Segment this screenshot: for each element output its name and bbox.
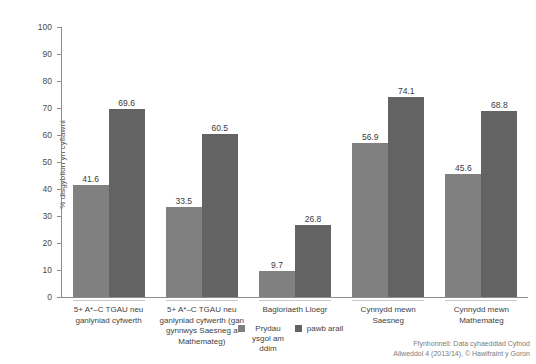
source-line-2: Allweddol 4 (2013/14), © Hawlfraint y Go… (393, 349, 530, 359)
bar: 33.5 (166, 207, 202, 297)
bar-rect (73, 185, 109, 297)
bar-group: 33.560.5 (155, 27, 248, 297)
legend-swatch-icon (238, 325, 245, 332)
y-tick-label: 50 (28, 157, 52, 167)
y-tick-label: 70 (28, 103, 52, 113)
bar-rect (166, 207, 202, 297)
category-label: 5+ A*–C TGAU neu ganlyniad cyfwerth (gan… (154, 305, 250, 347)
category-label: 5+ A*–C TGAU neu ganlyniad cyfwerth (61, 305, 157, 326)
source-line-1: Ffynhonnell: Data cyhaeddiad Cyfnod (393, 339, 530, 349)
source-note: Ffynhonnell: Data cyhaeddiad Cyfnod Allw… (393, 339, 530, 358)
y-tick-mark (57, 27, 61, 28)
bar-group-bars: 9.726.8 (248, 27, 341, 297)
bar: 68.8 (481, 111, 517, 297)
bar-group-bars: 33.560.5 (155, 27, 248, 297)
bar-group-bars: 45.668.8 (435, 27, 528, 297)
bar-value-label: 74.1 (398, 86, 415, 96)
y-tick-label: 80 (28, 76, 52, 86)
y-tick-label: 40 (28, 184, 52, 194)
bar-rect (202, 134, 238, 297)
legend-label: Prydau ysgol am ddim (249, 324, 287, 354)
bar-chart: % disgyblion yn cyflawni 010203040506070… (0, 0, 536, 364)
bar-rect (295, 225, 331, 297)
bar-value-label: 68.8 (491, 100, 508, 110)
bar-rect (259, 271, 295, 297)
bar-value-label: 69.6 (118, 98, 135, 108)
bar-group: 41.669.6 (62, 27, 155, 297)
category-label: Cynnydd mewn Saesneg (346, 305, 430, 326)
bar: 41.6 (73, 185, 109, 297)
y-tick-label: 30 (28, 211, 52, 221)
y-tick-mark (57, 216, 61, 217)
bar: 56.9 (352, 143, 388, 297)
bar-value-label: 33.5 (176, 196, 193, 206)
x-axis-line (61, 297, 528, 298)
y-tick-mark (57, 297, 61, 298)
category-separator (166, 300, 238, 301)
bar: 60.5 (202, 134, 238, 297)
category-separator (445, 300, 517, 301)
y-tick-mark (57, 135, 61, 136)
bar-rect (352, 143, 388, 297)
bar-group-bars: 41.669.6 (62, 27, 155, 297)
bar-rect (388, 97, 424, 297)
y-tick-mark (57, 189, 61, 190)
bar-value-label: 9.7 (271, 260, 283, 270)
y-tick-mark (57, 162, 61, 163)
bar-group: 45.668.8 (435, 27, 528, 297)
y-tick-mark (57, 81, 61, 82)
bar-rect (109, 109, 145, 297)
y-tick-mark (57, 54, 61, 55)
bar-value-label: 60.5 (212, 123, 229, 133)
bar-value-label: 26.8 (305, 214, 322, 224)
y-tick-label: 100 (28, 22, 52, 32)
bar-value-label: 45.6 (455, 163, 472, 173)
bar-group: 56.974.1 (342, 27, 435, 297)
y-tick-mark (57, 270, 61, 271)
category-label: Bagloriaeth Lloegr (253, 305, 337, 316)
bar-value-label: 41.6 (82, 174, 99, 184)
legend-item[interactable]: pawb arall (295, 324, 344, 334)
y-tick-label: 10 (28, 265, 52, 275)
y-tick-label: 20 (28, 238, 52, 248)
bar-rect (481, 111, 517, 297)
chart-legend: Prydau ysgol am ddimpawb arall (238, 324, 344, 354)
bar: 69.6 (109, 109, 145, 297)
bar: 26.8 (295, 225, 331, 297)
bar: 9.7 (259, 271, 295, 297)
bar-rect (445, 174, 481, 297)
category-label: Cynnydd mewn Mathemateg (439, 305, 523, 326)
y-tick-label: 0 (28, 292, 52, 302)
legend-swatch-icon (295, 325, 302, 332)
category-separator (73, 300, 145, 301)
plot-area: 41.669.633.560.59.726.856.974.145.668.8 (62, 27, 528, 297)
bar: 45.6 (445, 174, 481, 297)
legend-label: pawb arall (306, 324, 344, 334)
bar-value-label: 56.9 (362, 132, 379, 142)
y-tick-mark (57, 108, 61, 109)
y-tick-mark (57, 243, 61, 244)
bar: 74.1 (388, 97, 424, 297)
bar-group-bars: 56.974.1 (342, 27, 435, 297)
bar-group: 9.726.8 (248, 27, 341, 297)
legend-item[interactable]: Prydau ysgol am ddim (238, 324, 287, 354)
category-separator (352, 300, 424, 301)
y-tick-label: 90 (28, 49, 52, 59)
category-separator (259, 300, 331, 301)
y-tick-label: 60 (28, 130, 52, 140)
